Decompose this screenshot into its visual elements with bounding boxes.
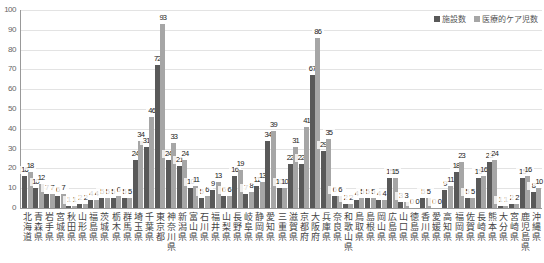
bar-chart: 0102030405060708090100 1618北海道1012青森県77岩… <box>0 0 544 263</box>
bar-facilities <box>498 206 503 208</box>
bar-facilities <box>66 206 71 208</box>
x-tick-label: 奈良県 <box>332 212 343 242</box>
legend-item-facilities: 施設数 <box>434 13 466 24</box>
legend-label-children: 医療的ケア児数 <box>482 13 538 24</box>
x-tick-label: 山形県 <box>77 212 88 242</box>
y-tick-label: 40 <box>0 124 16 133</box>
bar-children <box>481 176 486 208</box>
bar-children <box>116 196 121 208</box>
data-label: 10 <box>533 178 544 186</box>
bar-facilities <box>199 198 204 208</box>
x-tick-label: 宮城県 <box>55 212 66 242</box>
x-tick-label: 東京都 <box>155 212 166 242</box>
data-label: 16 <box>522 166 534 174</box>
bar-facilities <box>166 160 171 208</box>
bar-facilities <box>332 196 337 208</box>
bar-facilities <box>310 75 315 208</box>
x-tick-label: 長野県 <box>232 212 243 242</box>
bar-facilities <box>387 178 392 208</box>
x-tick-label: 茨城県 <box>99 212 110 242</box>
bar-facilities <box>77 204 82 208</box>
x-tick-label: 富山県 <box>188 212 199 242</box>
bar-facilities <box>299 164 304 208</box>
x-tick-label: 山口県 <box>398 212 409 242</box>
bar-facilities <box>221 196 226 208</box>
x-tick-label: 新潟県 <box>177 212 188 242</box>
data-label: 31 <box>290 137 302 145</box>
x-tick-label: 石川県 <box>199 212 210 242</box>
bar-facilities <box>531 192 536 208</box>
x-tick-label: 岡山県 <box>376 212 387 242</box>
bar-facilities <box>99 198 104 208</box>
bar-facilities <box>420 198 425 208</box>
y-tick-label: 90 <box>0 25 16 34</box>
data-label: 15 <box>389 168 401 176</box>
bar-children <box>459 162 464 208</box>
y-tick-label: 60 <box>0 84 16 93</box>
data-label: 13 <box>212 172 224 180</box>
x-tick-label: 滋賀県 <box>288 212 299 242</box>
bar-facilities <box>476 178 481 208</box>
data-label: 11 <box>190 176 202 184</box>
bar-children <box>138 141 143 208</box>
x-tick-label: 神奈川県 <box>166 212 177 252</box>
x-tick-label: 佐賀県 <box>465 212 476 242</box>
bar-facilities <box>509 204 514 208</box>
bar-facilities <box>343 204 348 208</box>
bar-children <box>205 196 210 208</box>
data-label: 93 <box>157 14 169 22</box>
y-tick-label: 100 <box>0 5 16 14</box>
x-tick-label: 徳島県 <box>409 212 420 242</box>
bar-children <box>149 117 154 208</box>
gridline <box>21 109 542 110</box>
bar-children <box>282 188 287 208</box>
y-tick-label: 80 <box>0 45 16 54</box>
x-tick-label: 和歌山県 <box>343 212 354 252</box>
bar-children <box>127 198 132 208</box>
data-label: 86 <box>312 28 324 36</box>
x-tick-label: 岐阜県 <box>243 212 254 242</box>
data-label: 19 <box>234 160 246 168</box>
bar-facilities <box>188 188 193 208</box>
bar-facilities <box>55 196 60 208</box>
bar-children <box>304 127 309 208</box>
x-tick-label: 宮崎県 <box>509 212 520 242</box>
gridline <box>21 30 542 31</box>
x-tick-label: 福井県 <box>210 212 221 242</box>
bar-facilities <box>232 176 237 208</box>
bar-children <box>72 206 77 208</box>
bar-facilities <box>442 190 447 208</box>
bar-children <box>271 131 276 208</box>
bar-children <box>171 143 176 208</box>
bar-facilities <box>243 194 248 208</box>
bar-children <box>260 182 265 208</box>
bar-facilities <box>122 198 127 208</box>
x-tick-label: 栃木県 <box>111 212 122 242</box>
x-tick-label: 静岡県 <box>254 212 265 242</box>
bar-facilities <box>33 188 38 208</box>
x-tick-label: 青森県 <box>33 212 44 242</box>
x-tick-label: 福岡県 <box>454 212 465 242</box>
bar-children <box>470 198 475 208</box>
x-tick-label: 群馬県 <box>122 212 133 242</box>
bar-facilities <box>321 151 326 208</box>
bar-facilities <box>265 141 270 208</box>
bar-children <box>249 192 254 208</box>
bar-facilities <box>155 65 160 208</box>
x-tick-label: 京都府 <box>299 212 310 242</box>
x-tick-label: 大阪府 <box>310 212 321 242</box>
bar-children <box>448 186 453 208</box>
data-label: 35 <box>323 129 335 137</box>
y-tick-label: 70 <box>0 64 16 73</box>
y-tick-label: 50 <box>0 104 16 113</box>
bar-children <box>525 176 530 208</box>
x-tick-label: 三重県 <box>277 212 288 242</box>
bar-facilities <box>44 194 49 208</box>
x-tick-label: 鹿児島県 <box>520 212 531 252</box>
bar-children <box>227 196 232 208</box>
bar-children <box>536 188 541 208</box>
x-tick-label: 島根県 <box>365 212 376 242</box>
bar-facilities <box>277 188 282 208</box>
bar-facilities <box>520 178 525 208</box>
bar-facilities <box>487 162 492 208</box>
